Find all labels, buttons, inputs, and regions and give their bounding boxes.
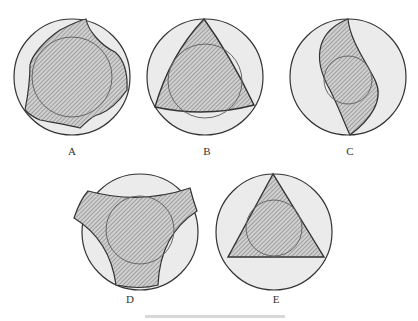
- figure-canvas: [0, 0, 418, 321]
- panel-d-label: D: [126, 293, 134, 305]
- panel-b: [147, 19, 263, 135]
- panel-c-label: C: [346, 145, 353, 157]
- panel-e-label: E: [273, 293, 280, 305]
- panel-b-label: B: [203, 145, 210, 157]
- panel-a-label: A: [68, 145, 76, 157]
- panel-e: [216, 174, 332, 290]
- panel-a: [14, 19, 130, 135]
- panel-c: [290, 19, 406, 135]
- figure-caption: [145, 315, 285, 318]
- panel-d: [74, 174, 198, 290]
